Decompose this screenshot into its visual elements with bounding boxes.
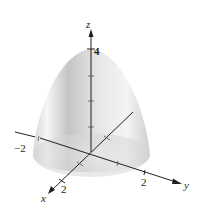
y-axis-arrow-icon: [172, 179, 182, 185]
y-tick-neg2: −2: [14, 142, 26, 154]
y-tick-2: 2: [141, 176, 147, 188]
z-axis-label: z: [85, 18, 91, 30]
x-axis-label: x: [40, 192, 46, 204]
z-axis-arrow-icon: [89, 29, 94, 37]
paraboloid-diagram: z 4 −2 2 y 2 x: [0, 0, 202, 217]
y-axis-label: y: [183, 179, 189, 191]
x-tick-2: 2: [61, 183, 67, 195]
z-tick-4: 4: [94, 45, 100, 57]
x-axis-arrow-icon: [48, 186, 55, 194]
